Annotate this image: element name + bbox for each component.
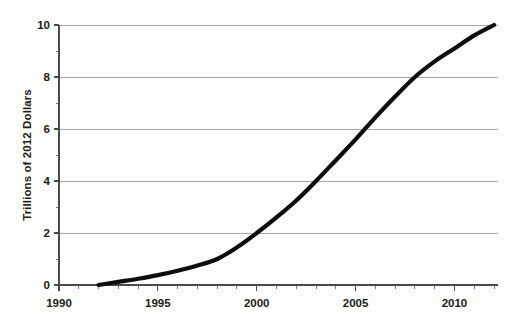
y-tick-label: 6: [44, 123, 50, 135]
x-tick-label: 1990: [46, 297, 72, 309]
x-tick-label: 1995: [145, 297, 171, 309]
y-axis-tick-labels: 0246810: [37, 19, 50, 291]
y-axis-ticks: [54, 25, 59, 285]
gridlines: [59, 25, 498, 233]
x-tick-label: 2010: [442, 297, 468, 309]
x-axis-tick-labels: 19901995200020052010: [46, 297, 467, 309]
y-tick-label: 8: [44, 71, 51, 83]
x-axis-ticks: [59, 285, 494, 291]
y-tick-label: 2: [44, 227, 50, 239]
chart-canvas: 0246810 19901995200020052010 Trillions o…: [0, 0, 518, 323]
y-tick-label: 0: [44, 279, 50, 291]
y-tick-label: 10: [37, 19, 50, 31]
chart-container: 0246810 19901995200020052010 Trillions o…: [0, 0, 518, 323]
x-tick-label: 2000: [244, 297, 270, 309]
x-tick-label: 2005: [343, 297, 369, 309]
y-tick-label: 4: [44, 175, 51, 187]
y-axis-title: Trillions of 2012 Dollars: [21, 89, 33, 221]
data-line-series-0: [99, 25, 495, 285]
